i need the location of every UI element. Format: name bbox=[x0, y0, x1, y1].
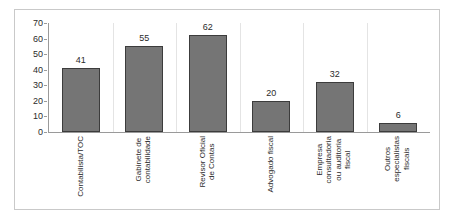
bar-value-label: 20 bbox=[266, 89, 276, 98]
bar: 41 bbox=[62, 68, 100, 132]
x-axis-label-line: Empresa bbox=[315, 136, 324, 184]
x-axis-label-line: Revisor Oficial bbox=[198, 136, 207, 188]
bar-value-label: 55 bbox=[139, 34, 149, 43]
bar-slot: 32 bbox=[303, 23, 367, 132]
x-axis-label: Gabinete decontabilidade bbox=[134, 136, 153, 183]
bar-value-label: 62 bbox=[203, 23, 213, 32]
bar-value-label: 32 bbox=[330, 70, 340, 79]
plot-area: 41556220326 bbox=[48, 23, 430, 133]
x-axis-label-line: ou auditoria bbox=[334, 136, 343, 184]
bar: 32 bbox=[316, 82, 354, 132]
x-label-slot: Empresaconsultadoriaou auditoriafiscal bbox=[302, 134, 366, 208]
x-axis-label: Empresaconsultadoriaou auditoriafiscal bbox=[315, 136, 353, 184]
bar-slot: 41 bbox=[49, 23, 113, 132]
y-tick-mark bbox=[44, 70, 47, 71]
bar-slot: 62 bbox=[176, 23, 240, 132]
x-axis-label-line: de Contas bbox=[207, 136, 216, 188]
chart-figure: 706050403020100 41556220326 Contabilista… bbox=[14, 9, 440, 210]
x-axis-label: Contabilista/TOC bbox=[76, 136, 85, 197]
bar: 20 bbox=[252, 101, 290, 132]
x-axis-label: Advogado fiscal bbox=[266, 136, 275, 192]
y-tick-mark bbox=[44, 132, 47, 133]
bar-value-label: 6 bbox=[396, 111, 401, 120]
x-label-slot: Advogado fiscal bbox=[239, 134, 303, 208]
y-tick-label: 50 bbox=[33, 50, 43, 59]
x-axis-label-line: contabilidade bbox=[144, 136, 153, 183]
x-label-slot: Contabilista/TOC bbox=[48, 134, 112, 208]
y-tick-label: 20 bbox=[33, 96, 43, 105]
x-axis-label-line: Advogado fiscal bbox=[266, 136, 275, 192]
x-label-slot: Gabinete decontabilidade bbox=[112, 134, 176, 208]
x-label-slot: Outrosespecialistasfiscais bbox=[366, 134, 430, 208]
bar-slot: 55 bbox=[113, 23, 177, 132]
x-axis-label-line: Outros bbox=[383, 136, 392, 182]
x-axis-label-line: consultadoria bbox=[324, 136, 333, 184]
y-tick-mark bbox=[44, 23, 47, 24]
y-tick-label: 60 bbox=[33, 34, 43, 43]
y-tick-label: 70 bbox=[33, 19, 43, 28]
bar: 6 bbox=[379, 123, 417, 132]
bar-value-label: 41 bbox=[76, 56, 86, 65]
bar: 62 bbox=[189, 35, 227, 132]
y-tick-label: 40 bbox=[33, 65, 43, 74]
x-axis-label-line: Gabinete de bbox=[134, 136, 143, 183]
x-label-slot: Revisor Oficialde Contas bbox=[175, 134, 239, 208]
x-axis-label-line: Contabilista/TOC bbox=[76, 136, 85, 197]
x-axis-label: Outrosespecialistasfiscais bbox=[383, 136, 411, 182]
bar-slot: 6 bbox=[367, 23, 431, 132]
x-axis-category-labels: Contabilista/TOCGabinete decontabilidade… bbox=[48, 134, 429, 208]
bar-slot: 20 bbox=[240, 23, 304, 132]
y-tick-mark bbox=[44, 101, 47, 102]
y-tick-label: 0 bbox=[38, 128, 43, 137]
bar-series: 41556220326 bbox=[49, 23, 430, 132]
y-tick-mark bbox=[44, 39, 47, 40]
y-tick-label: 10 bbox=[33, 112, 43, 121]
y-tick-mark bbox=[44, 116, 47, 117]
y-axis: 706050403020100 bbox=[15, 10, 47, 211]
y-tick-label: 30 bbox=[33, 81, 43, 90]
x-axis-label-line: fiscais bbox=[402, 136, 411, 182]
x-axis-label-line: especialistas bbox=[393, 136, 402, 182]
x-axis-label: Revisor Oficialde Contas bbox=[198, 136, 217, 188]
y-tick-mark bbox=[44, 54, 47, 55]
y-tick-mark bbox=[44, 85, 47, 86]
bar: 55 bbox=[125, 46, 163, 132]
x-axis-label-line: fiscal bbox=[343, 136, 352, 184]
